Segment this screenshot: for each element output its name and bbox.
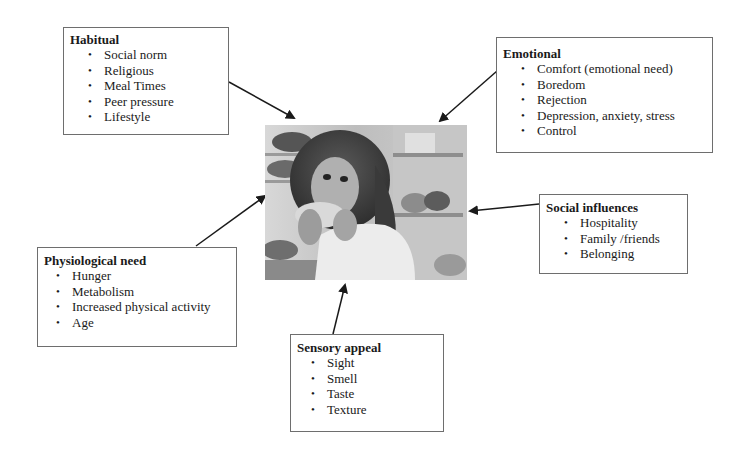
list-item: Age	[56, 315, 230, 331]
list-item: Depression, anxiety, stress	[521, 108, 706, 124]
list-item: Lifestyle	[88, 109, 222, 125]
center-photo	[265, 125, 467, 280]
habitual-box: Habitual Social norm Religious Meal Time…	[63, 27, 229, 135]
list-item: Control	[521, 123, 706, 139]
box-title: Habitual	[70, 32, 222, 47]
arrow-social	[470, 204, 539, 211]
box-list: Social norm Religious Meal Times Peer pr…	[70, 47, 222, 125]
box-list: Sight Smell Taste Texture	[297, 355, 437, 417]
box-title: Physiological need	[44, 253, 230, 268]
list-item: Social norm	[88, 47, 222, 63]
list-item: Peer pressure	[88, 94, 222, 110]
list-item: Boredom	[521, 77, 706, 93]
arrow-emotional	[440, 71, 497, 121]
arrow-physiological	[196, 196, 265, 246]
list-item: Comfort (emotional need)	[521, 61, 706, 77]
sensory-appeal-box: Sensory appeal Sight Smell Taste Texture	[290, 334, 444, 432]
list-item: Taste	[311, 386, 437, 402]
list-item: Rejection	[521, 92, 706, 108]
list-item: Hospitality	[564, 215, 681, 231]
list-item: Religious	[88, 63, 222, 79]
box-title: Emotional	[503, 46, 706, 61]
physiological-need-box: Physiological need Hunger Metabolism Inc…	[37, 247, 237, 347]
list-item: Smell	[311, 371, 437, 387]
list-item: Meal Times	[88, 78, 222, 94]
list-item: Sight	[311, 355, 437, 371]
box-list: Hospitality Family /friends Belonging	[546, 215, 681, 262]
list-item: Hunger	[56, 268, 230, 284]
list-item: Belonging	[564, 246, 681, 262]
box-title: Sensory appeal	[297, 340, 437, 355]
box-list: Hunger Metabolism Increased physical act…	[44, 268, 230, 330]
arrow-sensory	[333, 285, 345, 334]
woman-eating-photo-icon	[265, 125, 467, 280]
list-item: Family /friends	[564, 231, 681, 247]
arrow-habitual	[229, 82, 294, 118]
box-title: Social influences	[546, 200, 681, 215]
box-list: Comfort (emotional need) Boredom Rejecti…	[503, 61, 706, 139]
emotional-box: Emotional Comfort (emotional need) Bored…	[496, 37, 713, 153]
list-item: Texture	[311, 402, 437, 418]
list-item: Metabolism	[56, 284, 230, 300]
list-item: Increased physical activity	[56, 299, 230, 315]
social-influences-box: Social influences Hospitality Family /fr…	[539, 194, 688, 274]
